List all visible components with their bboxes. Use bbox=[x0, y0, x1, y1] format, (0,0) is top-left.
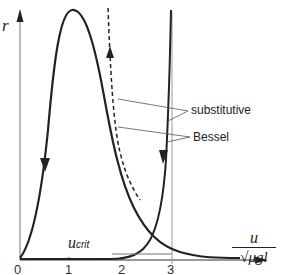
x-axis-numerator: u bbox=[232, 230, 276, 246]
x-axis-label: u √μgl bbox=[232, 230, 276, 265]
fraction-bar bbox=[232, 247, 276, 248]
label-substitutive: substitutive bbox=[191, 103, 251, 117]
x-axis-denominator: √μgl bbox=[232, 249, 276, 265]
label-bessel: Bessel bbox=[193, 130, 229, 144]
u-crit-main: u bbox=[68, 234, 76, 251]
u-crit-sub: crit bbox=[76, 239, 89, 250]
u-crit-label: ucrit bbox=[68, 234, 89, 252]
